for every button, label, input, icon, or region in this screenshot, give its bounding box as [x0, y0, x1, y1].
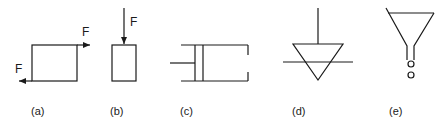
caption-b: (b): [110, 105, 123, 117]
element-rectangle: [112, 45, 136, 81]
drop-icon: [408, 61, 414, 67]
caption-a: (a): [31, 105, 44, 117]
panel-d-free-surface: (d): [283, 8, 353, 117]
caption-e: (e): [389, 105, 402, 117]
panel-b-compression: F (b): [110, 8, 137, 117]
panel-e-funnel: (e): [386, 8, 434, 117]
caption-d: (d): [292, 105, 305, 117]
force-label-bottom: F: [15, 62, 22, 76]
funnel-left-side: [386, 8, 407, 60]
force-label-top: F: [82, 25, 89, 39]
drop-icon: [408, 72, 414, 78]
caption-c: (c): [180, 105, 193, 117]
element-rectangle: [32, 45, 77, 81]
funnel-right-side: [414, 13, 434, 60]
panel-a-shear: F F (a): [15, 25, 90, 117]
force-label: F: [130, 15, 137, 29]
diagram-canvas: F F (a) F (b) (c) (d) (e): [0, 0, 446, 126]
panel-c-dashpot: (c): [170, 45, 248, 117]
